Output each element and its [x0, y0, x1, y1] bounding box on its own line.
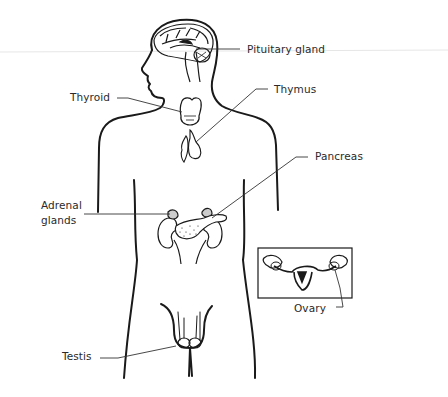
label-pituitary-gland: Pituitary gland [247, 43, 325, 56]
testis-leader [100, 346, 176, 358]
abdominal-organs [158, 208, 227, 264]
label-adrenal-glands: Adrenal glands [41, 198, 82, 228]
thymus-leader [196, 89, 268, 142]
thymus-gland [181, 130, 201, 162]
brain [154, 24, 213, 82]
pancreas-leader [212, 157, 308, 218]
label-testis: Testis [62, 350, 92, 363]
label-ovary: Ovary [294, 302, 326, 315]
thyroid-leader [117, 98, 182, 112]
label-thymus: Thymus [274, 83, 316, 96]
thyroid-gland [180, 98, 201, 125]
female-reproductive-inset [258, 248, 352, 298]
label-thyroid: Thyroid [70, 91, 110, 104]
scan-line [0, 50, 448, 52]
endocrine-diagram: Pituitary gland Thymus Thyroid Pancreas … [0, 0, 448, 397]
label-pancreas: Pancreas [315, 150, 363, 163]
